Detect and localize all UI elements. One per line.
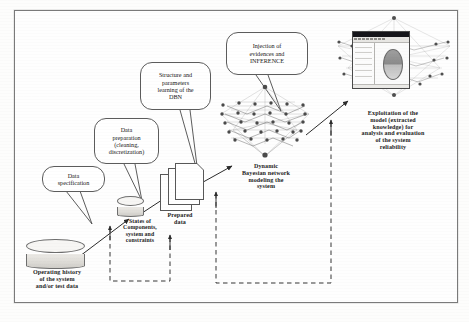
figure-canvas: Dataspecification Datapreparation(cleani… — [0, 0, 469, 322]
overlay-layer — [0, 0, 469, 322]
